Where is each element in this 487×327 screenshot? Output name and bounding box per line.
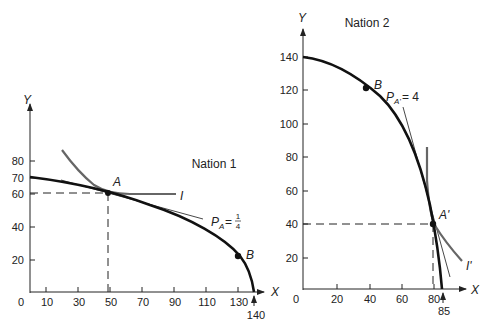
x-tick-label: 0 xyxy=(293,293,299,305)
y-tick-label: 140 xyxy=(280,51,298,63)
y-tick-label: 40 xyxy=(12,221,24,233)
svg-text:4: 4 xyxy=(236,222,241,231)
point-b-label: B xyxy=(246,248,254,262)
x-tick-label: 90 xyxy=(169,296,181,308)
x-tick-label: 80 xyxy=(428,293,440,305)
indifference-curve xyxy=(427,147,462,261)
point-a-prime-label: A' xyxy=(438,208,450,222)
y-ticks: 80 70 60 40 20 xyxy=(12,155,35,266)
svg-text:A: A xyxy=(218,222,224,231)
x-tick-label: 50 xyxy=(105,296,117,308)
production-frontier xyxy=(303,57,442,289)
svg-text:= 4: = 4 xyxy=(402,90,419,104)
x-tick-label: 60 xyxy=(396,293,408,305)
point-a-label: A xyxy=(112,175,121,189)
x-tick-label: 20 xyxy=(331,293,343,305)
nation-1-title: Nation 1 xyxy=(192,157,237,171)
x-tick-label: 130 xyxy=(230,296,248,308)
price-label: P A = 1 4 xyxy=(211,212,241,231)
y-axis-label: Y xyxy=(298,11,307,25)
y-tick-label: 60 xyxy=(12,188,24,200)
y-tick-label: 20 xyxy=(12,254,24,266)
svg-text:1: 1 xyxy=(236,212,241,221)
indifference-label: I xyxy=(180,189,184,203)
x-axis-label: X xyxy=(270,285,280,299)
x-tick-label: 70 xyxy=(137,296,149,308)
x-tick-label: 40 xyxy=(364,293,376,305)
svg-text:=: = xyxy=(225,215,232,229)
x-tick-label: 10 xyxy=(41,296,53,308)
x-intercept-label: 85 xyxy=(438,305,450,317)
y-axis-label: Y xyxy=(23,93,32,107)
price-label: P A' = 4 xyxy=(386,90,419,106)
x-tick-label: 0 xyxy=(18,296,24,308)
x-axis-label: X xyxy=(470,283,480,297)
y-tick-label: 40 xyxy=(286,218,298,230)
figure: Nation 1 Y X 80 70 60 40 20 0 xyxy=(0,0,487,327)
point-a-prime-marker xyxy=(430,221,436,227)
y-tick-label: 80 xyxy=(12,155,24,167)
svg-text:P: P xyxy=(211,215,219,229)
y-tick-label: 70 xyxy=(12,172,24,184)
x-intercept-label: 140 xyxy=(247,309,265,321)
y-tick-label: 100 xyxy=(280,118,298,130)
y-tick-label: 80 xyxy=(286,151,298,163)
x-tick-label: 110 xyxy=(198,296,216,308)
y-tick-label: 20 xyxy=(286,252,298,264)
nation-2-chart: Nation 2 Y X 140 120 100 80 60 40 20 xyxy=(280,11,480,317)
point-b-marker xyxy=(235,253,241,259)
y-ticks: 140 120 100 80 60 40 20 xyxy=(280,51,308,264)
svg-text:P: P xyxy=(386,90,394,104)
y-tick-label: 120 xyxy=(280,84,298,96)
point-b-marker xyxy=(363,85,369,91)
point-b-label: B xyxy=(374,78,382,92)
nation-2-title: Nation 2 xyxy=(345,16,390,30)
svg-text:A': A' xyxy=(393,97,401,106)
nation-1-chart: Nation 1 Y X 80 70 60 40 20 0 xyxy=(12,93,280,321)
y-tick-label: 60 xyxy=(286,185,298,197)
x-tick-label: 30 xyxy=(73,296,85,308)
point-a-marker xyxy=(105,190,111,196)
indifference-label: I' xyxy=(466,259,472,273)
